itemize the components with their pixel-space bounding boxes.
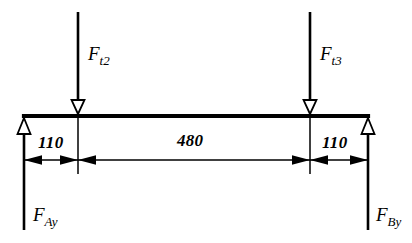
right-load-arrowhead bbox=[304, 100, 317, 114]
right-load-subscript: t3 bbox=[332, 53, 342, 68]
left-reaction-label: FAy bbox=[33, 205, 58, 228]
right-reaction-symbol: F bbox=[376, 204, 388, 225]
right-load-label: Ft3 bbox=[320, 44, 342, 67]
right-overhang-dimension-label: 110 bbox=[322, 134, 347, 151]
right-reaction-label: FBy bbox=[376, 205, 401, 228]
left-reaction-symbol: F bbox=[33, 204, 45, 225]
beam-free-body-diagram: Ft2 Ft3 FAy FBy 110 480 110 bbox=[0, 0, 412, 243]
left-load-label: Ft2 bbox=[88, 44, 110, 67]
right-reaction-subscript: By bbox=[388, 214, 402, 229]
dim-right-arrow-end bbox=[350, 155, 368, 165]
left-load-subscript: t2 bbox=[100, 53, 110, 68]
left-reaction-subscript: Ay bbox=[45, 214, 58, 229]
dim-left-arrow-end bbox=[60, 155, 78, 165]
center-span-dimension-label: 480 bbox=[177, 132, 203, 149]
diagram-canvas bbox=[0, 0, 412, 243]
left-reaction-arrowhead bbox=[18, 118, 31, 134]
dim-right-arrow-start bbox=[310, 155, 328, 165]
left-overhang-dimension-label: 110 bbox=[38, 134, 63, 151]
left-load-arrowhead bbox=[72, 100, 85, 114]
dim-left-arrow-start bbox=[24, 155, 42, 165]
right-load-symbol: F bbox=[320, 43, 332, 64]
left-load-symbol: F bbox=[88, 43, 100, 64]
dim-center-arrow-start bbox=[78, 155, 96, 165]
dim-center-arrow-end bbox=[292, 155, 310, 165]
right-reaction-arrowhead bbox=[362, 118, 375, 134]
